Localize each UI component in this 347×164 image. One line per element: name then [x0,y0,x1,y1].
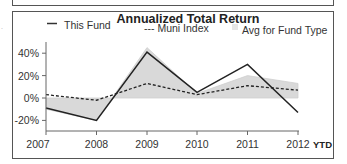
x-tick-label: 2007 [26,138,50,150]
y-tick-label: 0% [24,92,39,104]
y-tick-label: -20% [14,114,39,126]
x-tick-label: 2011 [236,138,259,150]
x-axis: 200720082009201020112012 YTD [26,131,332,150]
legend: This Fund --- Muni Index Avg for Fund Ty… [47,19,328,36]
y-tick-label: 40% [18,47,39,59]
x-tick-label: 2009 [135,138,159,150]
x-tick-label: 2012 [286,138,310,150]
legend-avg-swatch [232,24,238,30]
y-axis: 40%20%0%-20% [14,42,46,131]
legend-fund: This Fund [64,19,111,31]
x-tick-label: 2010 [185,138,209,150]
plot-area [46,48,298,121]
ytd-label: YTD [313,139,332,150]
legend-avg: Avg for Fund Type [242,24,328,36]
x-tick-label: 2008 [85,138,109,150]
avg-fund-type-area [46,48,298,121]
y-tick-label: 20% [18,70,39,82]
return-chart: Annualized Total Return This Fund --- Mu… [0,0,347,164]
legend-index: --- Muni Index [144,22,210,34]
